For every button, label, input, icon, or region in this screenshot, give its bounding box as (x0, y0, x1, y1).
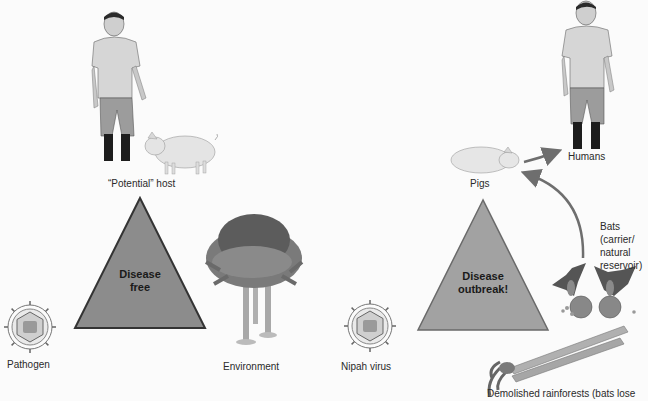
humans-label: Humans (568, 151, 605, 163)
pig-right-lying (451, 147, 519, 173)
environment-label: Environment (223, 361, 279, 373)
bats-label-line3: natural (600, 246, 642, 259)
bats-label-line4: reservoir) (600, 259, 642, 272)
palm-trees-icon (206, 214, 302, 345)
human-figure-left (92, 12, 146, 161)
pigs-to-humans-arrow (524, 153, 553, 162)
bats-label-line2: (carrier/ (600, 233, 642, 246)
fruit-cluster-icon (561, 296, 636, 318)
bats-label: Bats (carrier/ natural reservoir) (600, 220, 642, 272)
disease-free-line2: free (100, 281, 180, 294)
disease-outbreak-triangle (418, 200, 548, 330)
disease-free-triangle (75, 198, 205, 328)
pathogen-virus-icon (4, 301, 56, 353)
demolished-rainforest-logs-icon (489, 326, 628, 396)
demolished-rainforests-label: Demolished rainforests (bats lose (487, 388, 635, 400)
diagram-canvas (0, 0, 648, 401)
potential-host-label: “Potential” host (108, 178, 175, 190)
pigs-label: Pigs (470, 178, 489, 190)
nipah-virus-icon (344, 300, 396, 352)
disease-outbreak-line1: Disease (443, 270, 523, 283)
disease-outbreak-line2: outbreak! (443, 283, 523, 296)
pig-left (145, 132, 218, 174)
nipah-virus-label: Nipah virus (341, 361, 391, 373)
human-figure-right (562, 1, 614, 149)
pathogen-label: Pathogen (7, 359, 50, 371)
bats-label-line1: Bats (600, 220, 642, 233)
disease-outbreak-text: Disease outbreak! (443, 270, 523, 296)
bats-to-pigs-arrow (530, 175, 583, 258)
disease-free-line1: Disease (100, 268, 180, 281)
disease-free-text: Disease free (100, 268, 180, 294)
